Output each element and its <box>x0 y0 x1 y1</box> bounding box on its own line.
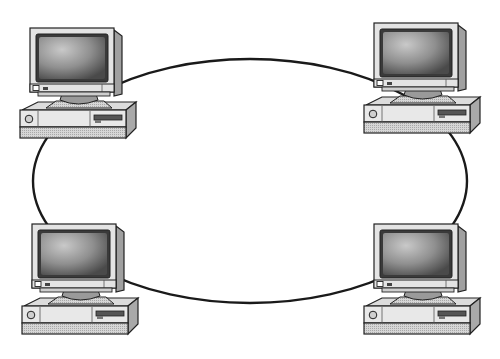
computer-bottom-left <box>18 220 142 338</box>
monitor <box>32 224 124 292</box>
desktop-computer-icon <box>16 24 140 142</box>
computer-bottom-right <box>360 220 484 338</box>
computer-top-left <box>16 24 140 142</box>
monitor <box>374 224 466 292</box>
desktop-computer-icon <box>360 19 484 137</box>
monitor <box>30 28 122 96</box>
desktop-computer-icon <box>18 220 142 338</box>
desktop-computer-icon <box>360 220 484 338</box>
monitor <box>374 23 466 91</box>
ring-network-diagram <box>0 0 500 359</box>
computer-top-right <box>360 19 484 137</box>
